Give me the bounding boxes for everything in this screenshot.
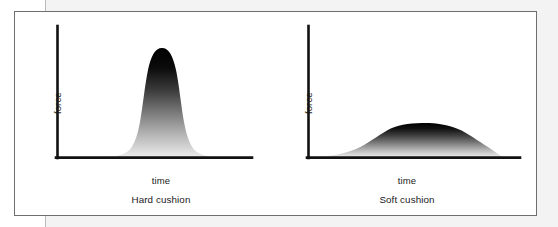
chart-panel-soft-cushion: force time Soft cushion xyxy=(292,12,522,217)
panel-caption-soft-cushion: Soft cushion xyxy=(292,194,522,205)
plot-area-hard-cushion xyxy=(41,12,271,177)
force-curve-hard-cushion xyxy=(57,48,252,158)
y-axis-label-hard-cushion: force xyxy=(52,92,63,114)
x-axis-label-hard-cushion: time xyxy=(46,175,276,186)
plot-area-soft-cushion xyxy=(292,12,522,177)
figure-frame: force time Hard cushion force t xyxy=(14,11,537,216)
x-axis-label-soft-cushion: time xyxy=(292,175,522,186)
y-axis-label-soft-cushion: force xyxy=(303,92,314,114)
force-curve-soft-cushion xyxy=(308,123,503,158)
panel-caption-hard-cushion: Hard cushion xyxy=(46,194,276,205)
chart-panel-hard-cushion: force time Hard cushion xyxy=(41,12,271,217)
